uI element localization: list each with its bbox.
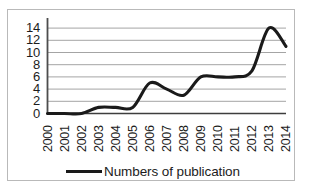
x-tick-label: 2013 — [263, 125, 275, 152]
x-tick-label: 2006 — [144, 125, 156, 152]
x-tick-label: 2001 — [59, 125, 71, 152]
x-tick-label: 2002 — [76, 125, 88, 152]
x-tick-label: 2011 — [229, 126, 241, 152]
x-tick-label: 2003 — [93, 125, 105, 152]
x-tick-label: 2012 — [246, 125, 258, 152]
legend-line-swatch — [66, 170, 102, 173]
x-tick-label: 2009 — [195, 125, 207, 152]
chart-legend: Numbers of publication — [58, 162, 248, 180]
x-tick-label: 2014 — [280, 125, 292, 152]
y-tick-label: 0 — [14, 107, 40, 120]
x-tick-label: 2008 — [178, 125, 190, 152]
x-tick-label: 2000 — [42, 125, 54, 152]
chart-figure: 14121086420 2000200120022003200420052006… — [0, 0, 309, 192]
legend-label: Numbers of publication — [104, 164, 240, 179]
x-tick-label: 2007 — [161, 125, 173, 152]
x-tick-label: 2010 — [212, 125, 224, 152]
x-tick-label: 2004 — [110, 125, 122, 152]
x-tick-label: 2005 — [127, 125, 139, 152]
